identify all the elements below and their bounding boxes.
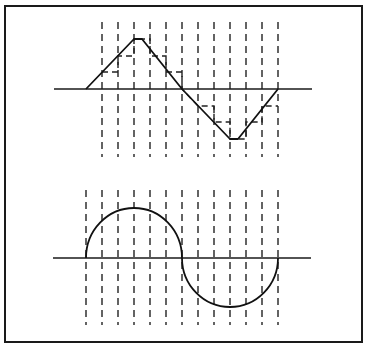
waveform-diagram xyxy=(0,0,366,347)
top-panel-triangle-wave xyxy=(54,22,312,157)
bottom-panel-sine-wave xyxy=(53,190,311,325)
figure-frame xyxy=(5,6,362,342)
